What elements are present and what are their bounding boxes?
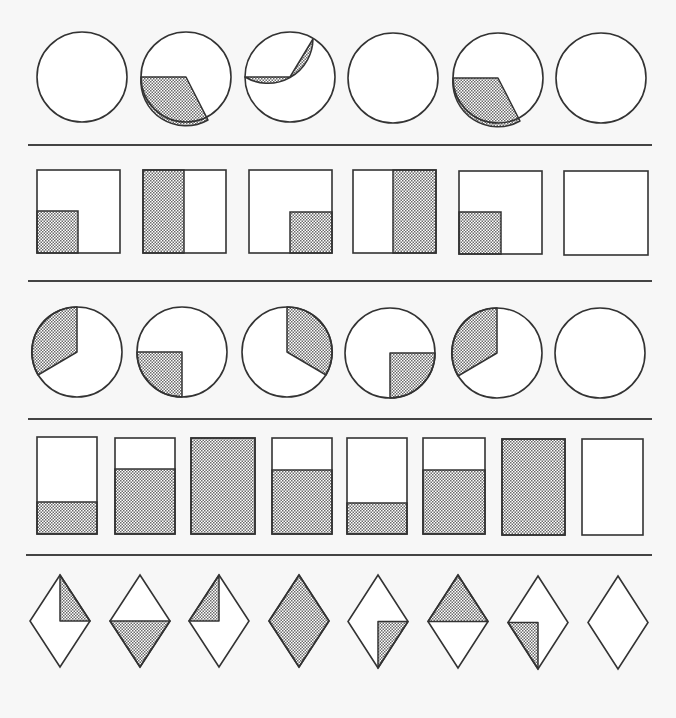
square-figure [459,171,542,254]
circle-figure [242,307,332,397]
circle-figure [348,33,438,123]
rect-figure [272,438,332,534]
circle-figure [32,307,122,397]
pattern-puzzle-canvas [0,0,676,718]
circle-figure [37,32,127,122]
shaded-region [459,212,501,254]
fill-level [347,503,407,534]
circle-figure [555,308,645,398]
circle-figure [556,33,646,123]
rect-figure [502,439,565,535]
rect-figure [191,438,255,534]
shaded-region [37,211,78,253]
square-figure [564,171,648,255]
rect-figure [423,438,485,534]
circle-figure [345,308,435,398]
circle-figure [245,32,335,122]
fill-level [115,469,175,534]
fill-level [191,438,255,534]
fill-level [272,470,332,534]
shaded-region [393,170,436,253]
rect-figure [115,438,175,534]
fill-level [423,470,485,534]
square-figure [37,170,120,253]
circle-figure [452,308,542,398]
square-figure [143,170,226,253]
rect-figure [37,437,97,534]
fill-level [502,439,565,535]
rect-figure [582,439,643,535]
fill-level [37,502,97,534]
rect-figure [347,438,407,534]
shaded-region [290,212,332,253]
circle-figure [137,307,227,397]
square-figure [249,170,332,253]
square-figure [353,170,436,253]
shaded-region [143,170,184,253]
